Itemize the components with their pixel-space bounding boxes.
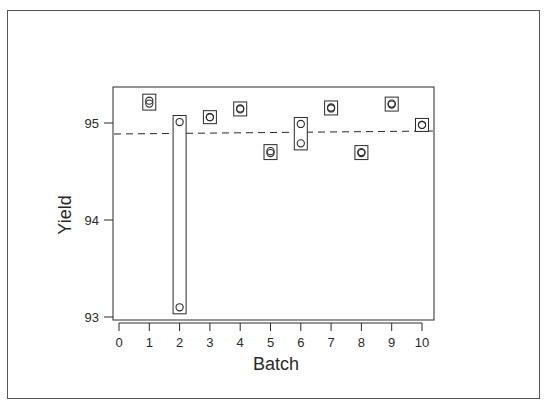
- batch-1-group: [143, 94, 156, 110]
- x-tick-label: 6: [297, 335, 304, 350]
- x-axis-label: Batch: [253, 354, 299, 374]
- range-box: [203, 111, 216, 124]
- range-box: [385, 97, 398, 111]
- batch-4-group: [234, 102, 247, 116]
- batch-10-group: [416, 118, 429, 131]
- range-box: [416, 118, 429, 131]
- batch-2-group: [173, 116, 186, 314]
- yield-by-batch-chart: 939495 012345678910 Batch Yield: [0, 0, 546, 403]
- batch-7-group: [325, 101, 338, 115]
- x-tick-label: 0: [115, 335, 122, 350]
- y-tick-label: 93: [85, 310, 99, 325]
- batch-8-group: [355, 146, 368, 160]
- x-tick-label: 3: [206, 335, 213, 350]
- y-tick-label: 95: [85, 116, 99, 131]
- range-box: [173, 116, 186, 314]
- x-tick-label: 4: [237, 335, 244, 350]
- batch-3-group: [203, 111, 216, 124]
- range-box: [234, 102, 247, 116]
- range-box: [355, 146, 368, 160]
- x-axis: 012345678910: [115, 323, 429, 350]
- batch-9-group: [385, 97, 398, 111]
- mean-dashed-line: [114, 131, 433, 134]
- y-tick-label: 94: [85, 213, 99, 228]
- x-tick-label: 10: [415, 335, 429, 350]
- x-tick-label: 7: [327, 335, 334, 350]
- batch-6-group: [294, 117, 307, 149]
- data-points: [143, 94, 429, 314]
- plot-area: [113, 87, 434, 320]
- x-tick-label: 1: [146, 335, 153, 350]
- plot-border: [113, 87, 434, 320]
- range-box: [264, 145, 277, 160]
- x-tick-label: 9: [388, 335, 395, 350]
- y-axis: 939495: [85, 116, 113, 325]
- range-box: [325, 101, 338, 115]
- batch-5-group: [264, 145, 277, 160]
- y-axis-label: Yield: [55, 195, 75, 234]
- x-tick-label: 5: [267, 335, 274, 350]
- x-tick-label: 8: [358, 335, 365, 350]
- range-box: [294, 117, 307, 149]
- x-tick-label: 2: [176, 335, 183, 350]
- mean-reference-line: [114, 131, 433, 134]
